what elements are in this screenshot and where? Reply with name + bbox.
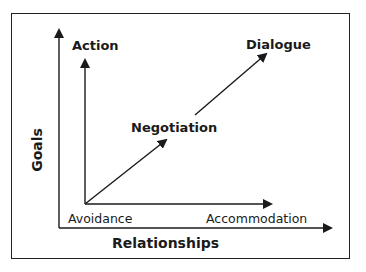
negotiation-label: Negotiation	[131, 121, 217, 134]
diagram-arrows	[0, 0, 366, 272]
dialogue-arrow	[195, 54, 266, 115]
action-label: Action	[72, 39, 119, 52]
x-axis-title: Relationships	[112, 236, 219, 250]
accommodation-label: Accommodation	[206, 213, 307, 226]
avoidance-label: Avoidance	[68, 213, 132, 226]
negotiation-arrow	[85, 140, 166, 204]
y-axis-title: Goals	[29, 128, 45, 172]
dialogue-label: Dialogue	[246, 38, 311, 51]
